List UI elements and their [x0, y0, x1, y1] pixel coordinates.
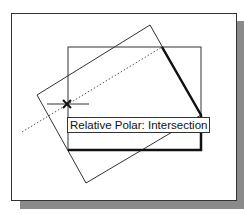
selected-edges: [68, 47, 201, 150]
cad-drawing: [0, 0, 244, 215]
rectangle-outline: [68, 47, 201, 150]
snap-tooltip: Relative Polar: Intersection: [67, 117, 210, 133]
